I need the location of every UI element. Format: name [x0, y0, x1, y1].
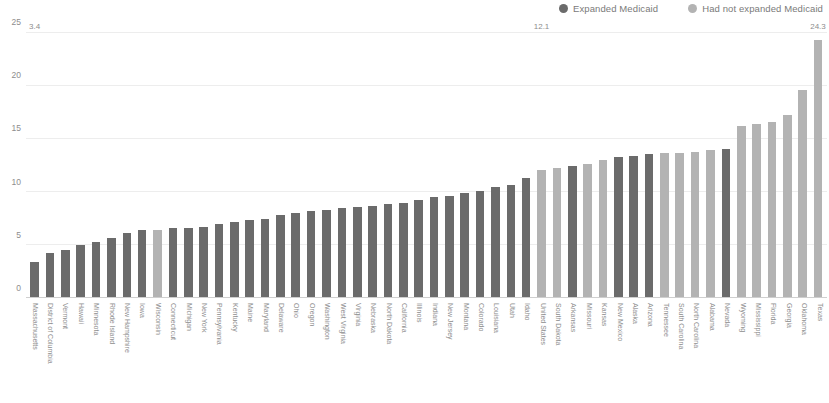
bar-slot[interactable]: [288, 33, 303, 298]
bar[interactable]: [215, 224, 224, 298]
bar[interactable]: [476, 191, 485, 298]
legend-item[interactable]: Expanded Medicaid: [559, 3, 658, 14]
bar-slot[interactable]: [227, 33, 242, 298]
bar-slot[interactable]: [626, 33, 641, 298]
bar[interactable]: [261, 219, 270, 299]
bar[interactable]: [737, 126, 746, 298]
bar-slot[interactable]: [319, 33, 334, 298]
bar-slot[interactable]: [749, 33, 764, 298]
bar-slot[interactable]: [181, 33, 196, 298]
bar-slot[interactable]: [104, 33, 119, 298]
bar[interactable]: [460, 193, 469, 298]
bar[interactable]: [107, 238, 116, 298]
bar-slot[interactable]: 3.4: [27, 33, 42, 298]
bar[interactable]: [691, 152, 700, 298]
bar-slot[interactable]: 12.1: [534, 33, 549, 298]
bar-slot[interactable]: [703, 33, 718, 298]
bar[interactable]: [291, 213, 300, 298]
bar[interactable]: [399, 203, 408, 298]
bar-slot[interactable]: [273, 33, 288, 298]
bar-slot[interactable]: [503, 33, 518, 298]
bar-slot[interactable]: [519, 33, 534, 298]
bar[interactable]: [752, 124, 761, 298]
bar[interactable]: [138, 230, 147, 298]
bar[interactable]: [46, 253, 55, 298]
bar[interactable]: [507, 185, 516, 298]
bar-slot[interactable]: [257, 33, 272, 298]
bar[interactable]: [184, 228, 193, 298]
bar[interactable]: [445, 196, 454, 298]
bar[interactable]: [629, 156, 638, 298]
bar[interactable]: [599, 160, 608, 298]
bar[interactable]: [430, 197, 439, 298]
bar-slot[interactable]: [687, 33, 702, 298]
bar[interactable]: [230, 222, 239, 298]
bar-slot[interactable]: [549, 33, 564, 298]
bar-slot[interactable]: 24.3: [810, 33, 825, 298]
bar[interactable]: [169, 228, 178, 298]
bar[interactable]: [276, 215, 285, 298]
bar[interactable]: [553, 168, 562, 298]
bar-slot[interactable]: [396, 33, 411, 298]
bar-slot[interactable]: [303, 33, 318, 298]
bar-slot[interactable]: [211, 33, 226, 298]
bar-slot[interactable]: [780, 33, 795, 298]
bar-slot[interactable]: [457, 33, 472, 298]
bar[interactable]: [245, 220, 254, 298]
bar-slot[interactable]: [442, 33, 457, 298]
bar[interactable]: [491, 187, 500, 298]
bar-slot[interactable]: [150, 33, 165, 298]
bar-slot[interactable]: [472, 33, 487, 298]
bar[interactable]: [368, 206, 377, 298]
bar[interactable]: [645, 154, 654, 298]
bar-slot[interactable]: [88, 33, 103, 298]
bar-slot[interactable]: [119, 33, 134, 298]
bar[interactable]: [338, 208, 347, 298]
bar[interactable]: 12.1: [537, 170, 546, 298]
bar-slot[interactable]: [242, 33, 257, 298]
bar-slot[interactable]: [165, 33, 180, 298]
bar[interactable]: [153, 230, 162, 298]
bar[interactable]: [123, 233, 132, 298]
bar[interactable]: [384, 204, 393, 298]
bar[interactable]: [660, 153, 669, 298]
bar-slot[interactable]: [764, 33, 779, 298]
bar[interactable]: [353, 207, 362, 298]
bar-slot[interactable]: [657, 33, 672, 298]
bar[interactable]: [414, 200, 423, 298]
bar-slot[interactable]: [73, 33, 88, 298]
bar[interactable]: [722, 149, 731, 298]
bar[interactable]: [675, 153, 684, 298]
bar[interactable]: [783, 115, 792, 298]
bar[interactable]: [614, 157, 623, 298]
bar[interactable]: 24.3: [814, 40, 823, 298]
bar-slot[interactable]: [718, 33, 733, 298]
bar-slot[interactable]: [42, 33, 57, 298]
bar-slot[interactable]: [734, 33, 749, 298]
bar-slot[interactable]: [58, 33, 73, 298]
bar-slot[interactable]: [334, 33, 349, 298]
bar-slot[interactable]: [611, 33, 626, 298]
bar[interactable]: [568, 166, 577, 299]
bar-slot[interactable]: [196, 33, 211, 298]
bar[interactable]: [199, 227, 208, 298]
bar-slot[interactable]: [365, 33, 380, 298]
bar-slot[interactable]: [795, 33, 810, 298]
bar-slot[interactable]: [380, 33, 395, 298]
bar[interactable]: [76, 245, 85, 298]
bar-slot[interactable]: [426, 33, 441, 298]
bar[interactable]: [61, 250, 70, 298]
bar-slot[interactable]: [488, 33, 503, 298]
bar[interactable]: [583, 164, 592, 298]
legend-item[interactable]: Had not expanded Medicaid: [688, 3, 823, 14]
bar[interactable]: [92, 242, 101, 298]
bar[interactable]: [307, 211, 316, 298]
bar-slot[interactable]: [595, 33, 610, 298]
bar-slot[interactable]: [350, 33, 365, 298]
bar[interactable]: [322, 210, 331, 298]
bar-slot[interactable]: [135, 33, 150, 298]
bar-slot[interactable]: [672, 33, 687, 298]
bar-slot[interactable]: [565, 33, 580, 298]
bar[interactable]: [706, 150, 715, 298]
bar[interactable]: [798, 90, 807, 298]
